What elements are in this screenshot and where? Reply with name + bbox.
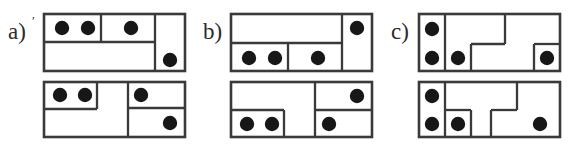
b-bottom-dot-4 (322, 117, 336, 131)
c-top-dot-2 (425, 51, 439, 65)
c-top-dot-3 (451, 51, 465, 65)
a-bottom-lower-rectangle (44, 82, 185, 137)
a-bottom-dot-1 (53, 88, 67, 102)
c-bottom-lower-rectangle (419, 82, 560, 137)
figure-root: a)′b)c) (0, 0, 581, 149)
b-top-dot-1 (350, 21, 364, 35)
a-top-dot-2 (81, 21, 95, 35)
a-top-dot-3 (124, 21, 138, 35)
b-top-dot-4 (311, 51, 325, 65)
c-bottom-dot-4 (533, 117, 547, 131)
b-bottom-dot-1 (350, 89, 364, 103)
b-top-dot-2 (242, 51, 256, 65)
a-bottom-dot-4 (163, 116, 177, 130)
c-top-outline (419, 14, 560, 71)
a-top-dot-1 (55, 21, 69, 35)
a-bottom-dot-3 (134, 88, 148, 102)
c-bottom-dot-1 (425, 89, 439, 103)
a-top-upper-rectangle (44, 14, 185, 71)
b-bottom-dot-2 (240, 117, 254, 131)
a-top-dot-4 (163, 53, 177, 67)
panel-a-drawing (0, 0, 196, 149)
panel-b: b) (195, 0, 391, 149)
b-top-upper-rectangle (231, 14, 372, 71)
panel-a: a)′ (0, 0, 196, 149)
c-top-dot-4 (540, 51, 554, 65)
c-bottom-dot-3 (451, 117, 465, 131)
c-top-upper-rectangle (419, 14, 560, 71)
a-bottom-dot-2 (78, 88, 92, 102)
c-bottom-dot-2 (425, 117, 439, 131)
panel-b-drawing (195, 0, 391, 149)
b-top-dot-3 (268, 51, 282, 65)
panel-c-drawing (385, 0, 581, 149)
b-bottom-lower-rectangle (231, 82, 372, 137)
c-top-dot-1 (425, 22, 439, 36)
b-bottom-dot-3 (265, 117, 279, 131)
panel-c: c) (385, 0, 581, 149)
